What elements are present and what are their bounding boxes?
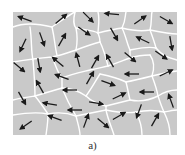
figure-caption: a) — [0, 139, 185, 151]
domain-diagram — [0, 0, 185, 155]
grain-boundary — [98, 12, 99, 33]
